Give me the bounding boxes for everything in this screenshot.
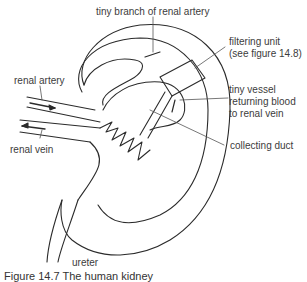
branch-arrow-icon (145, 52, 160, 57)
label-filtering-unit: filtering unit (229, 36, 280, 48)
label-renal-vein: renal vein (10, 144, 53, 156)
label-tiny-vessel-1: tiny vessel (229, 84, 276, 96)
label-collecting-duct: collecting duct (230, 140, 293, 152)
return-arrow-icon (172, 100, 175, 112)
label-filtering-unit-ref: (see figure 14.8) (229, 48, 302, 60)
filtering-tube-2 (148, 96, 172, 138)
calyces (100, 122, 150, 160)
renal-vein-wall-bottom (20, 132, 90, 142)
renal-pelvis (103, 82, 185, 130)
label-tiny-vessel-3: to renal vein (229, 108, 283, 120)
label-renal-artery: renal artery (14, 75, 65, 87)
kidney-cortex-boundary (79, 38, 208, 223)
leader-tiny-vessel (180, 98, 228, 100)
figure-caption: Figure 14.7 The human kidney (4, 270, 153, 282)
renal-artery-wall-top (27, 97, 95, 110)
pelvis-lower (78, 142, 100, 200)
leader-collecting-duct (150, 110, 224, 145)
kidney-upper-lobe (84, 59, 143, 105)
artery-arrowhead-icon (49, 105, 55, 110)
vein-arrowhead-icon (22, 123, 28, 128)
leader-renal-vein (40, 130, 42, 138)
leader-renal-artery (40, 86, 42, 100)
label-tiny-branch: tiny branch of renal artery (96, 6, 209, 18)
label-ureter: ureter (72, 257, 98, 269)
leader-filtering-unit (195, 47, 225, 68)
ureter-left (47, 200, 62, 262)
label-tiny-vessel-2: returning blood (229, 96, 296, 108)
